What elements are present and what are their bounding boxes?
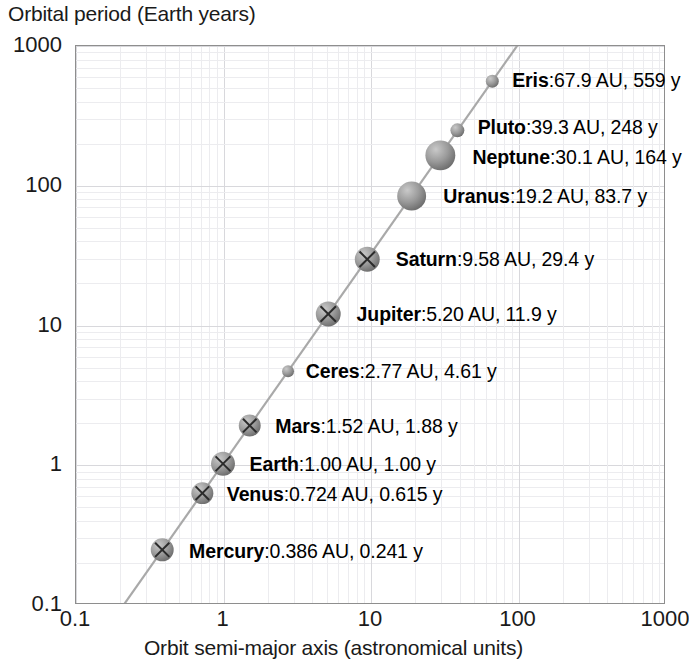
x-tick-label: 0.1 <box>60 606 91 632</box>
marker-sphere <box>450 123 464 137</box>
point-label-name: Eris <box>512 69 548 91</box>
point-label-values: :39.3 AU, 248 y <box>526 115 658 137</box>
point-label-values: :9.58 AU, 29.4 y <box>457 248 594 270</box>
point-label-name: Neptune <box>473 145 550 167</box>
x-tick-label: 1000 <box>641 606 689 632</box>
point-label-name: Mars <box>275 414 320 436</box>
point-label-name: Uranus <box>443 184 510 206</box>
x-axis-title: Orbit semi-major axis (astronomical unit… <box>0 636 667 660</box>
marker-eris[interactable] <box>486 75 499 88</box>
y-tick-label: 100 <box>25 172 62 198</box>
point-label-values: :30.1 AU, 164 y <box>550 145 682 167</box>
point-label-jupiter: Jupiter:5.20 AU, 11.9 y <box>357 302 557 325</box>
marker-ceres[interactable] <box>282 365 294 377</box>
y-axis-ticks: 10001001010.1 <box>0 45 70 604</box>
marker-pluto[interactable] <box>450 123 464 137</box>
point-label-ceres: Ceres:2.77 AU, 4.61 y <box>306 360 497 383</box>
point-label-values: :1.00 AU, 1.00 y <box>299 453 436 475</box>
marker-jupiter[interactable] <box>316 302 341 327</box>
y-axis-title: Orbital period (Earth years) <box>8 2 256 26</box>
point-label-name: Mercury <box>189 539 264 561</box>
point-label-venus: Venus:0.724 AU, 0.615 y <box>227 482 443 505</box>
point-label-uranus: Uranus:19.2 AU, 83.7 y <box>443 184 647 207</box>
point-label-values: :67.9 AU, 559 y <box>549 69 681 91</box>
marker-saturn[interactable] <box>355 247 380 272</box>
marker-mercury[interactable] <box>151 538 174 561</box>
x-tick-label: 10 <box>358 606 382 632</box>
marker-uranus[interactable] <box>397 182 426 211</box>
point-label-values: :19.2 AU, 83.7 y <box>510 184 647 206</box>
y-tick-label: 1 <box>50 451 62 477</box>
point-label-earth: Earth:1.00 AU, 1.00 y <box>250 453 437 476</box>
point-label-saturn: Saturn:9.58 AU, 29.4 y <box>396 248 594 271</box>
marker-neptune[interactable] <box>425 140 455 170</box>
point-label-name: Jupiter <box>357 302 421 324</box>
y-tick-label: 10 <box>38 312 62 338</box>
point-label-values: :1.52 AU, 1.88 y <box>320 414 457 436</box>
y-tick-label: 0.1 <box>31 591 62 617</box>
point-label-values: :2.77 AU, 4.61 y <box>359 360 496 382</box>
point-label-name: Pluto <box>478 115 526 137</box>
marker-venus[interactable] <box>191 482 213 504</box>
x-axis-ticks: 0.11101001000 <box>75 606 665 640</box>
point-label-name: Saturn <box>396 248 457 270</box>
x-tick-label: 100 <box>499 606 536 632</box>
point-label-pluto: Pluto:39.3 AU, 248 y <box>478 115 658 138</box>
marker-earth[interactable] <box>211 452 235 476</box>
marker-sphere <box>425 140 455 170</box>
point-label-eris: Eris:67.9 AU, 559 y <box>512 69 680 92</box>
point-label-name: Ceres <box>306 360 360 382</box>
marker-sphere <box>486 75 499 88</box>
y-tick-label: 1000 <box>13 32 62 58</box>
point-label-values: :0.724 AU, 0.615 y <box>284 482 443 504</box>
point-label-name: Earth <box>250 453 299 475</box>
point-label-mars: Mars:1.52 AU, 1.88 y <box>275 414 457 437</box>
marker-sphere <box>397 182 426 211</box>
point-label-values: :5.20 AU, 11.9 y <box>421 302 557 324</box>
point-label-name: Venus <box>227 482 284 504</box>
point-label-neptune: Neptune:30.1 AU, 164 y <box>473 145 682 168</box>
marker-sphere <box>282 365 294 377</box>
marker-mars[interactable] <box>239 415 261 437</box>
x-tick-label: 1 <box>216 606 228 632</box>
point-label-mercury: Mercury:0.386 AU, 0.241 y <box>189 539 423 562</box>
point-label-values: :0.386 AU, 0.241 y <box>264 539 423 561</box>
